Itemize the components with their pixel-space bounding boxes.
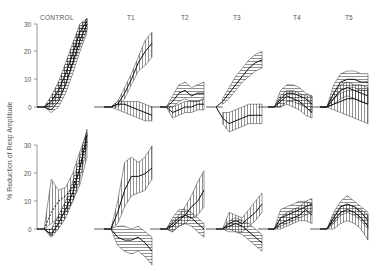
tick-label: 30 — [24, 21, 32, 28]
header-t5: T5 — [345, 14, 353, 21]
panel-t2-row1 — [150, 82, 204, 118]
tick-label: 30 — [24, 142, 32, 149]
tick-label: 10 — [24, 198, 32, 205]
tick-label: 0 — [28, 104, 32, 111]
header-t3: T3 — [233, 14, 241, 21]
tick-label: 0 — [28, 226, 32, 233]
variability-band — [111, 146, 152, 229]
header-t2: T2 — [181, 14, 189, 21]
panel-t4-row2 — [258, 199, 312, 230]
panel-control-row2 — [37, 129, 87, 237]
panel-t5-row1 — [310, 71, 368, 124]
y-axis-label: % Reduction of Resp Amplitude — [6, 101, 14, 200]
tick-label: 10 — [24, 76, 32, 83]
panel-control-row1 — [37, 18, 87, 112]
panel-t1-row1 — [94, 32, 152, 121]
panel-t4-row1 — [258, 85, 312, 118]
variability-band — [223, 52, 262, 105]
mean-line — [104, 43, 152, 107]
variability-band — [111, 32, 152, 107]
panel-t3-row2 — [206, 193, 262, 251]
variability-band — [111, 226, 152, 265]
panels — [37, 18, 368, 265]
y-axis-top — [34, 24, 37, 107]
variability-band — [223, 218, 262, 251]
y-ticks-top: 30 20 10 0 — [24, 21, 32, 111]
panel-t5-row2 — [310, 196, 368, 240]
tick-label: 20 — [24, 170, 32, 177]
tick-label: 20 — [24, 48, 32, 55]
panel-t3-row1 — [206, 52, 262, 132]
chart-figure: CONTROL T1 T2 T3 T4 T5 % Reduction of Re… — [0, 0, 387, 271]
panel-t2-row2 — [150, 171, 204, 238]
y-ticks-bottom: 30 20 10 0 — [24, 142, 32, 233]
header-control: CONTROL — [40, 14, 74, 21]
header-t4: T4 — [293, 14, 301, 21]
panel-t1-row2 — [94, 146, 152, 265]
header-t1: T1 — [127, 14, 135, 21]
y-axis-bottom — [34, 145, 37, 229]
